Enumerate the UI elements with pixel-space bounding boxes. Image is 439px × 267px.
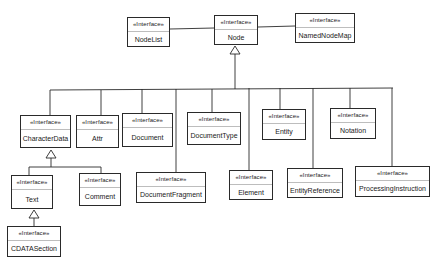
interface-processinginstruction: «Interface» ProcessingInstruction xyxy=(355,166,430,197)
stereotype-label: «Interface» xyxy=(356,167,429,181)
interface-name: Entity xyxy=(263,124,305,139)
stereotype-label: «Interface» xyxy=(296,14,354,28)
interface-comment: «Interface» Comment xyxy=(79,173,121,206)
interface-name: Document xyxy=(123,128,172,146)
interface-name: Element xyxy=(230,185,272,199)
interface-characterdata: «Interface» CharacterData xyxy=(20,115,71,148)
interface-entityreference: «Interface» EntityReference xyxy=(287,168,343,198)
interface-notation: «Interface» Notation xyxy=(330,108,376,139)
stereotype-label: «Interface» xyxy=(12,176,52,190)
interface-cdatasection: «Interface» CDATASection xyxy=(7,226,61,257)
stereotype-label: «Interface» xyxy=(263,110,305,124)
association-node-namednodemap xyxy=(258,26,295,27)
uml-diagram-canvas: «Interface» NodeList «Interface» Node «I… xyxy=(0,0,439,267)
stereotype-label: «Interface» xyxy=(8,227,60,241)
interface-name: DocumentFragment xyxy=(137,187,205,202)
generalization-arrow-characterdata xyxy=(46,150,56,158)
interface-name: Attr xyxy=(77,130,118,147)
association-nodelist-node xyxy=(170,28,214,29)
generalization-arrow-text xyxy=(29,210,39,218)
interface-element: «Interface» Element xyxy=(229,170,273,200)
interface-documenttype: «Interface» DocumentType xyxy=(187,112,241,145)
stereotype-label: «Interface» xyxy=(230,171,272,185)
interface-name: EntityReference xyxy=(288,183,342,197)
generalization-arrow-node xyxy=(230,46,240,54)
stereotype-label: «Interface» xyxy=(77,116,118,130)
interface-document: «Interface» Document xyxy=(122,113,173,147)
interface-name: Comment xyxy=(80,188,120,205)
interface-entity: «Interface» Entity xyxy=(262,109,306,140)
interface-name: CDATASection xyxy=(8,241,60,256)
interface-name: DocumentType xyxy=(188,127,240,144)
stereotype-label: «Interface» xyxy=(188,113,240,127)
generalization-bus-node xyxy=(50,88,393,90)
interface-text: «Interface» Text xyxy=(11,175,53,209)
interface-attr: «Interface» Attr xyxy=(76,115,119,148)
interface-name: CharacterData xyxy=(21,130,70,147)
stereotype-label: «Interface» xyxy=(123,114,172,128)
interface-name: NamedNodeMap xyxy=(296,28,354,42)
interface-name: Notation xyxy=(331,123,375,138)
interface-nodelist: «Interface» NodeList xyxy=(127,17,170,47)
stereotype-label: «Interface» xyxy=(288,169,342,183)
interface-node: «Interface» Node xyxy=(214,15,258,45)
interface-name: ProcessingInstruction xyxy=(356,181,429,196)
stereotype-label: «Interface» xyxy=(21,116,70,130)
stereotype-label: «Interface» xyxy=(128,18,169,32)
stereotype-label: «Interface» xyxy=(80,174,120,188)
interface-name: Node xyxy=(215,30,257,44)
interface-namednodemap: «Interface» NamedNodeMap xyxy=(295,13,355,43)
stereotype-label: «Interface» xyxy=(137,173,205,187)
stereotype-label: «Interface» xyxy=(331,109,375,123)
stereotype-label: «Interface» xyxy=(215,16,257,30)
interface-name: NodeList xyxy=(128,32,169,46)
interface-name: Text xyxy=(12,190,52,208)
interface-documentfragment: «Interface» DocumentFragment xyxy=(136,172,206,203)
